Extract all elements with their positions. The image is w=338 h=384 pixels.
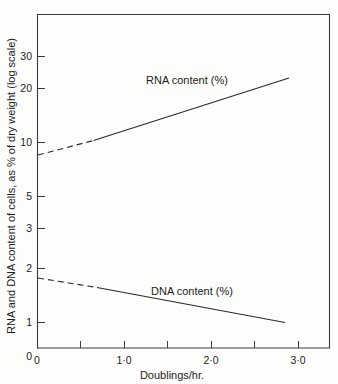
chart-figure: 30 20 10 5 3 2 1 0 0 1·0 2·0 3·0 [0, 0, 338, 384]
y-tick-label-30: 30 [20, 50, 32, 62]
x-tick-label-3-0: 3·0 [290, 354, 305, 366]
y-tick-group [38, 57, 46, 323]
x-tick-label-0: 0 [34, 354, 40, 366]
dna-series-label: DNA content (%) [151, 285, 233, 297]
y-tick-label-0: 0 [26, 350, 32, 362]
line-chart-canvas: 30 20 10 5 3 2 1 0 0 1·0 2·0 3·0 [0, 0, 338, 384]
x-tick-group [81, 341, 299, 348]
y-axis-title: RNA and DNA content of cells, as % of dr… [5, 38, 17, 334]
rna-measured-segment [94, 78, 290, 141]
dna-extrapolated-segment [38, 278, 97, 288]
y-tick-label-20: 20 [20, 82, 32, 94]
rna-series-label: RNA content (%) [146, 74, 228, 86]
x-tick-label-2-0: 2·0 [203, 354, 218, 366]
y-tick-label-1: 1 [26, 316, 32, 328]
series-rna [38, 78, 289, 155]
y-tick-label-3: 3 [26, 222, 32, 234]
rna-extrapolated-segment [38, 141, 94, 156]
x-axis-title: Doublings/hr. [140, 369, 204, 381]
y-tick-label-10: 10 [20, 136, 32, 148]
x-tick-label-1-0: 1·0 [116, 354, 131, 366]
y-tick-label-5: 5 [26, 190, 32, 202]
axis-group [37, 14, 330, 349]
y-tick-label-2: 2 [26, 262, 32, 274]
